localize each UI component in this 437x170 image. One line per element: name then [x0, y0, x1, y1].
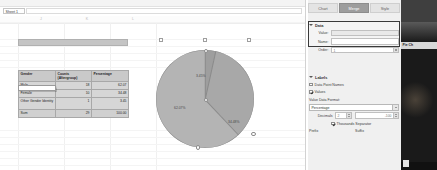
- table-header-percentage[interactable]: Percentage: [92, 71, 129, 82]
- table-row[interactable]: Other Gender Identity 1 3.45: [19, 98, 129, 110]
- order-field-row: Order: 1: [309, 47, 399, 54]
- values-checkbox[interactable]: [309, 90, 313, 94]
- cell-gender[interactable]: Sum: [19, 110, 56, 118]
- strip-caption: Pie Ch: [401, 42, 437, 49]
- data-section: Data Value: Name: Order: 1: [309, 22, 399, 54]
- prefix-suffix-labels: Prefix Suffix: [309, 129, 399, 133]
- cell-percentage[interactable]: 3.45: [92, 98, 129, 110]
- order-field-label: Order:: [309, 48, 331, 52]
- value-format-select[interactable]: Percentage: [309, 104, 393, 111]
- name-field-row: Name:: [309, 38, 399, 45]
- decimals-label: Decimals: [309, 114, 335, 118]
- chevron-down-icon[interactable]: [309, 76, 313, 78]
- values-row[interactable]: Values: [309, 89, 399, 95]
- cell-percentage[interactable]: 34.48: [92, 90, 129, 98]
- strip-video-body[interactable]: [401, 49, 437, 162]
- right-media-strip: Pie Ch: [401, 0, 437, 170]
- data-point-names-label: Data Point Names: [315, 83, 344, 87]
- cell-percentage[interactable]: 62.07: [92, 82, 129, 90]
- thousands-separator-checkbox[interactable]: [331, 122, 335, 126]
- cell-count[interactable]: 10: [56, 90, 92, 98]
- labels-section: Labels Data Point Names Values Value Dat…: [309, 74, 399, 133]
- pie-chart-object[interactable]: 3.45% 62.07% 34.48%: [148, 33, 262, 155]
- values-label: Values: [315, 90, 326, 94]
- strip-top-bar: [401, 0, 437, 22]
- gender-data-table: Gender Counts (Aftergroup) Percentage Ma…: [18, 70, 129, 118]
- chart-editor-sidebar: Chart Merge Style Data Value: Name: Orde…: [305, 0, 402, 170]
- suffix-label: Suffix: [355, 129, 395, 133]
- value-field-row: Value:: [309, 30, 399, 37]
- formula-bar[interactable]: [26, 8, 302, 14]
- sidebar-tabs: Chart Merge Style: [306, 3, 402, 13]
- pie-edge-point-top[interactable]: [204, 49, 208, 53]
- prefix-label: Prefix: [309, 129, 349, 133]
- pie-label-other: 3.45%: [196, 74, 206, 78]
- data-point-names-checkbox[interactable]: [309, 83, 313, 87]
- cell-count[interactable]: 1: [56, 98, 92, 110]
- tab-merge[interactable]: Merge: [339, 3, 369, 13]
- format-select-row: Percentage: [309, 104, 399, 111]
- app-root: Sheet 1 J K L: [0, 0, 437, 170]
- thousands-separator-row[interactable]: Thousands Separator: [309, 121, 399, 127]
- value-field-label: Value:: [309, 31, 331, 35]
- resize-handle-top-left[interactable]: [159, 38, 163, 42]
- thousands-separator-label: Thousands Separator: [337, 122, 372, 126]
- cell-gender[interactable]: Female: [19, 90, 56, 98]
- pie-edge-point-bottom[interactable]: [196, 145, 200, 149]
- chevron-down-icon[interactable]: [393, 104, 399, 111]
- decimals-row: Decimals 2 -100: [309, 112, 399, 119]
- labels-section-header[interactable]: Labels: [309, 74, 399, 80]
- name-input[interactable]: [331, 38, 399, 45]
- cell-count[interactable]: 18: [56, 82, 92, 90]
- data-section-header[interactable]: Data: [309, 22, 399, 28]
- tab-chart[interactable]: Chart: [308, 3, 338, 13]
- merged-banner-cell[interactable]: [18, 39, 128, 46]
- spreadsheet-toolbar: [0, 0, 305, 7]
- decimals-input[interactable]: 2: [335, 112, 347, 119]
- tab-style[interactable]: Style: [370, 3, 400, 13]
- resize-handle-top-center[interactable]: [203, 38, 207, 42]
- cell-percentage[interactable]: 100.00: [92, 110, 129, 118]
- resize-handle-top-right[interactable]: [247, 38, 251, 42]
- name-box[interactable]: Sheet 1: [3, 8, 25, 14]
- labels-section-title: Labels: [315, 75, 327, 80]
- pie-edge-point-right[interactable]: [251, 132, 255, 136]
- pie-label-female: 34.48%: [228, 120, 240, 124]
- pie-label-male: 62.07%: [174, 106, 186, 110]
- table-header-row: Gender Counts (Aftergroup) Percentage: [19, 71, 129, 82]
- decimals-secondary-input[interactable]: -100: [355, 112, 394, 119]
- decimals-stepper[interactable]: [347, 112, 352, 119]
- pie-center-point[interactable]: [204, 98, 208, 102]
- spreadsheet-pane: Sheet 1 J K L: [0, 0, 305, 170]
- cell-gender[interactable]: Other Gender Identity: [19, 98, 56, 110]
- data-point-names-row[interactable]: Data Point Names: [309, 82, 399, 88]
- decimals-secondary-stepper[interactable]: [394, 112, 399, 119]
- table-row[interactable]: Female 10 34.48: [19, 90, 129, 98]
- value-input[interactable]: [331, 30, 399, 37]
- strip-footer-button[interactable]: [403, 160, 409, 167]
- pie-graphic[interactable]: 3.45% 62.07% 34.48%: [156, 50, 254, 148]
- name-field-label: Name:: [309, 40, 331, 44]
- active-cell-editor[interactable]: [18, 85, 56, 92]
- table-row-sum[interactable]: Sum 29 100.00: [19, 110, 129, 118]
- table-header-counts[interactable]: Counts (Aftergroup): [56, 71, 92, 82]
- chevron-down-icon[interactable]: [309, 24, 313, 26]
- value-data-format-label: Value Data Format:: [309, 98, 340, 102]
- order-input[interactable]: 1: [331, 47, 394, 54]
- table-header-gender[interactable]: Gender: [19, 71, 56, 82]
- strip-preview-thumb: [401, 22, 437, 42]
- order-stepper[interactable]: [394, 47, 399, 54]
- cell-count[interactable]: 29: [56, 110, 92, 118]
- data-section-title: Data: [315, 23, 323, 28]
